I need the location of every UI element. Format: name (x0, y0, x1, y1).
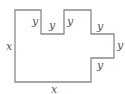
composite-shape-diagram: x x y y y y y y (0, 0, 125, 94)
label-left-side: x (6, 40, 13, 53)
label-notch-right-depth: y (66, 15, 74, 28)
label-protrusion-width: y (116, 39, 124, 52)
label-protrusion-bottom: y (96, 59, 104, 72)
label-notch-left-depth: y (31, 15, 39, 28)
label-protrusion-top: y (96, 20, 104, 33)
label-notch-width: y (48, 19, 56, 32)
label-bottom-side: x (51, 83, 58, 94)
